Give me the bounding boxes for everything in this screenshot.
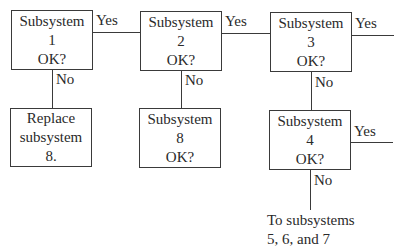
node-text: 4 — [306, 131, 314, 150]
node-subsystem-8: Subsystem 8 OK? — [139, 108, 221, 168]
node-text: OK? — [167, 51, 195, 70]
node-text: Subsystem — [147, 110, 212, 129]
node-text: Subsystem — [148, 13, 213, 32]
edge-sub2-sub8 — [181, 70, 182, 108]
edge-sub1-replace8 — [52, 70, 53, 108]
node-text: Subsystem — [277, 112, 342, 131]
node-text: OK? — [166, 148, 194, 167]
edge-sub1-sub2 — [93, 32, 140, 33]
edge-sub3-sub4 — [311, 72, 312, 110]
edge-sub3-yes — [352, 35, 394, 36]
terminal-text: To subsystems — [267, 211, 355, 230]
node-text: Subsystem — [19, 12, 84, 31]
node-text: 1 — [48, 31, 56, 50]
node-subsystem-1: Subsystem 1 OK? — [11, 10, 93, 70]
node-text: Replace — [27, 109, 75, 128]
edge-label-no: No — [185, 72, 203, 89]
node-text: 8. — [45, 147, 56, 166]
edge-label-yes: Yes — [354, 123, 376, 140]
terminal-to-subsystems: To subsystems 5, 6, and 7 — [267, 211, 355, 249]
node-replace-subsystem-8: Replace subsystem 8. — [10, 108, 92, 167]
node-subsystem-2: Subsystem 2 OK? — [140, 11, 222, 71]
node-text: 8 — [176, 129, 184, 148]
edge-sub4-yes — [351, 142, 393, 143]
edge-sub4-no — [310, 170, 311, 210]
node-text: Subsystem — [278, 14, 343, 33]
edge-label-yes: Yes — [225, 13, 247, 30]
node-text: OK? — [38, 50, 66, 69]
edge-label-no: No — [315, 74, 333, 91]
edge-label-yes: Yes — [96, 12, 118, 29]
node-text: 2 — [177, 32, 185, 51]
edge-sub2-sub3 — [222, 33, 270, 34]
node-text: 3 — [307, 33, 315, 52]
edge-label-no: No — [56, 71, 74, 88]
node-text: OK? — [296, 150, 324, 169]
node-subsystem-3: Subsystem 3 OK? — [270, 12, 352, 72]
node-text: subsystem — [20, 128, 83, 147]
terminal-text: 5, 6, and 7 — [267, 230, 355, 249]
edge-label-yes: Yes — [355, 15, 377, 32]
node-subsystem-4: Subsystem 4 OK? — [269, 110, 351, 170]
node-text: OK? — [297, 52, 325, 71]
edge-label-no: No — [314, 172, 332, 189]
